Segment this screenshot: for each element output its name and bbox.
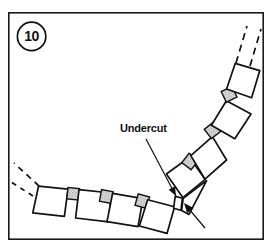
figure-number-text: 10 <box>24 28 39 44</box>
technical-drawing: Undercut 10 <box>0 0 272 250</box>
undercut-label: Undercut <box>120 122 167 134</box>
voussoir-block <box>33 186 68 216</box>
figure-number-badge: 10 <box>17 22 45 50</box>
figure-container: Undercut 10 <box>0 0 272 250</box>
